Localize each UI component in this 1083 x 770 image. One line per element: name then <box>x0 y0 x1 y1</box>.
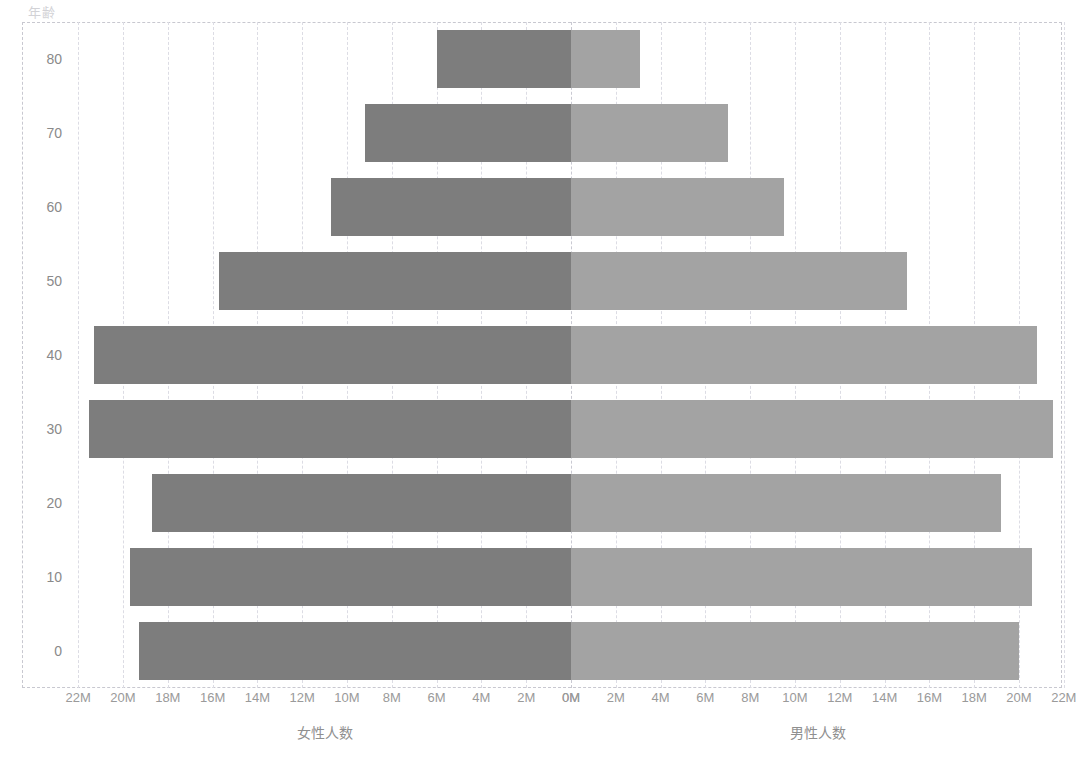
x-tick-label: 16M <box>200 690 225 705</box>
bar-male <box>571 474 1001 532</box>
x-tick-label: 8M <box>741 690 759 705</box>
bar-female <box>331 178 571 236</box>
x-tick-label: 22M <box>66 690 91 705</box>
x-tick-label: 2M <box>517 690 535 705</box>
x-axis-tick-labels: 22M20M18M16M14M12M10M8M6M4M2M0M0M2M4M6M8… <box>0 690 1083 720</box>
x-tick-label: 10M <box>782 690 807 705</box>
bar-female <box>94 326 571 384</box>
bar-male <box>571 252 907 310</box>
x-axis-titles: 女性人数 男性人数 <box>0 722 1083 750</box>
bar-female <box>365 104 571 162</box>
bar-row <box>0 326 1083 384</box>
x-tick-label: 18M <box>155 690 180 705</box>
bar-row <box>0 474 1083 532</box>
x-tick-label: 20M <box>110 690 135 705</box>
x-tick-label: 2M <box>607 690 625 705</box>
x-tick-label: 10M <box>334 690 359 705</box>
bars-layer <box>0 22 1083 688</box>
x-tick-label: 20M <box>1006 690 1031 705</box>
population-pyramid-chart: 年齢 01020304050607080 22M20M18M16M14M12M1… <box>0 0 1083 770</box>
bar-male <box>571 400 1053 458</box>
x-tick-label: 18M <box>962 690 987 705</box>
bar-male <box>571 178 784 236</box>
x-tick-label: 8M <box>383 690 401 705</box>
bar-female <box>139 622 571 680</box>
bar-male <box>571 326 1037 384</box>
x-tick-label: 14M <box>872 690 897 705</box>
bar-male <box>571 548 1032 606</box>
bar-female <box>130 548 571 606</box>
bar-male <box>571 104 728 162</box>
x-tick-label: 14M <box>245 690 270 705</box>
bar-row <box>0 30 1083 88</box>
x-axis-title-male: 男性人数 <box>790 722 846 742</box>
bar-row <box>0 548 1083 606</box>
x-tick-label: 12M <box>827 690 852 705</box>
bar-female <box>219 252 571 310</box>
x-tick-label: 22M <box>1051 690 1076 705</box>
bar-male <box>571 30 640 88</box>
x-tick-label: 6M <box>696 690 714 705</box>
bar-male <box>571 622 1019 680</box>
bar-row <box>0 622 1083 680</box>
bar-row <box>0 104 1083 162</box>
bar-female <box>152 474 571 532</box>
bar-row <box>0 252 1083 310</box>
bar-female <box>437 30 571 88</box>
x-tick-label: 4M <box>472 690 490 705</box>
bar-row <box>0 400 1083 458</box>
y-axis-title: 年齢 <box>28 2 56 21</box>
x-tick-label: 0M <box>562 690 580 705</box>
bar-row <box>0 178 1083 236</box>
x-tick-label: 16M <box>917 690 942 705</box>
x-tick-label: 4M <box>652 690 670 705</box>
x-tick-label: 6M <box>428 690 446 705</box>
x-tick-label: 12M <box>290 690 315 705</box>
bar-female <box>89 400 571 458</box>
x-axis-title-female: 女性人数 <box>297 722 353 742</box>
